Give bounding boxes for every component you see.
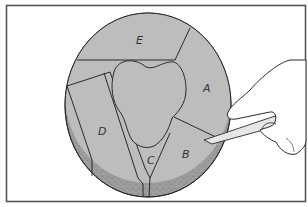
hand — [227, 60, 306, 154]
cake-cutting-illustration: E A D C B — [0, 0, 308, 207]
label-piece-a: A — [202, 82, 211, 95]
label-piece-b: B — [182, 148, 190, 161]
label-piece-c: C — [147, 154, 155, 167]
label-piece-e: E — [136, 34, 143, 47]
label-piece-d: D — [98, 125, 106, 138]
